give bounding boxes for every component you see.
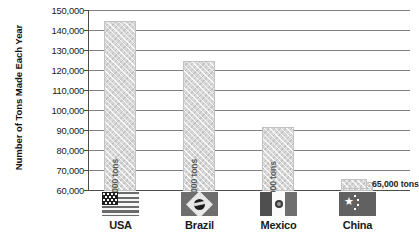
- y-tick-label: 100,000: [22, 105, 84, 116]
- category-usa[interactable]: USA: [102, 192, 139, 231]
- gridline: [88, 130, 410, 131]
- y-tick-mark: [84, 90, 89, 91]
- gridline: [88, 170, 410, 171]
- y-tick-label: 80,000: [22, 145, 84, 156]
- category-china[interactable]: ★ China: [339, 192, 376, 231]
- gridline: [88, 90, 410, 91]
- flag-china-small-stars: [339, 192, 376, 216]
- category-brazil[interactable]: Brazil: [181, 192, 218, 231]
- y-tick-label: 60,000: [22, 185, 84, 196]
- bar-usa[interactable]: 145,000 tons: [104, 21, 136, 191]
- y-tick-label: 70,000: [22, 165, 84, 176]
- y-tick-mark: [84, 190, 89, 191]
- category-label-usa: USA: [109, 219, 132, 231]
- y-tick-mark: [84, 170, 89, 171]
- x-axis-categories: USA Brazil Mexico ★: [88, 192, 410, 249]
- y-tick-label: 110,000: [22, 85, 84, 96]
- y-tick-mark: [84, 150, 89, 151]
- chart-title: [60, 0, 380, 3]
- flag-mexico-right-band: [285, 192, 297, 216]
- y-axis-line: [88, 10, 89, 191]
- flag-usa-stars: [102, 192, 118, 205]
- y-axis-tick-labels: 150,000 140,000 130,000 120,000 110,000 …: [22, 10, 84, 191]
- y-tick-label: 130,000: [22, 45, 84, 56]
- y-tick-mark: [84, 130, 89, 131]
- y-tick-mark: [84, 50, 89, 51]
- gridline: [88, 30, 410, 31]
- flag-mexico-left-band: [260, 192, 272, 216]
- bar-brazil[interactable]: 125,000 tons: [183, 61, 215, 191]
- category-mexico[interactable]: Mexico: [260, 192, 297, 231]
- y-tick-label: 150,000: [22, 5, 84, 16]
- y-tick-label: 90,000: [22, 125, 84, 136]
- gridline: [88, 50, 410, 51]
- category-label-china: China: [343, 219, 373, 231]
- gridline: [88, 70, 410, 71]
- flag-mexico-icon: [260, 192, 297, 216]
- y-tick-label: 120,000: [22, 65, 84, 76]
- y-tick-mark: [84, 10, 89, 11]
- y-tick-label: 140,000: [22, 25, 84, 36]
- flag-usa-icon: [102, 192, 139, 216]
- bar-value-label-china-group: 65,000 tons: [341, 179, 419, 189]
- y-tick-mark: [84, 110, 89, 111]
- gridline: [88, 10, 410, 11]
- gridline: [88, 110, 410, 111]
- plot-area: 145,000 tons 125,000 tons 92,000 tons 65…: [88, 10, 410, 191]
- flag-brazil-icon: [181, 192, 218, 216]
- flag-mexico-emblem-inner: [277, 202, 281, 206]
- flag-mexico-emblem: [275, 200, 283, 208]
- bar-china-color-swatch: [341, 179, 367, 189]
- gridline: [88, 150, 410, 151]
- y-tick-mark: [84, 70, 89, 71]
- flag-china-icon: ★: [339, 192, 376, 216]
- y-tick-mark: [84, 30, 89, 31]
- bar-mexico[interactable]: 92,000 tons: [262, 127, 294, 191]
- category-label-mexico: Mexico: [260, 219, 296, 231]
- bar-value-label-china: 65,000 tons: [372, 179, 419, 189]
- category-label-brazil: Brazil: [185, 219, 214, 231]
